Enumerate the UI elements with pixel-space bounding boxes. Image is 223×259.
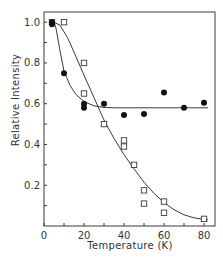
square-marker xyxy=(61,19,66,24)
square-marker xyxy=(161,210,166,215)
plot-border xyxy=(44,12,215,226)
circle-marker xyxy=(121,112,127,118)
circle-marker xyxy=(161,90,167,96)
fit-curves xyxy=(54,22,208,220)
square-marker xyxy=(131,162,136,167)
square-marker xyxy=(161,199,166,204)
y-tick-label: 0.8 xyxy=(24,57,40,68)
circle-marker xyxy=(181,105,187,111)
square-marker xyxy=(101,121,106,126)
circle-marker xyxy=(49,21,55,27)
square-marker xyxy=(81,91,86,96)
square-marker xyxy=(141,201,146,206)
y-tick-label: 0.4 xyxy=(24,139,40,150)
square-marker xyxy=(201,216,206,221)
axis-ticks xyxy=(44,22,204,226)
fit-curve xyxy=(54,22,208,108)
square-marker xyxy=(121,144,126,149)
y-tick-label: 0.2 xyxy=(24,180,40,191)
y-axis-label: Relative Intensity xyxy=(10,54,21,146)
square-marker xyxy=(141,188,146,193)
x-tick-label: 0 xyxy=(41,230,47,241)
square-marker xyxy=(81,60,86,65)
circle-marker xyxy=(61,70,67,76)
circle-marker xyxy=(201,100,207,106)
circle-marker xyxy=(81,105,87,111)
chart: 0204060800.20.40.60.81.0 Temperature (K)… xyxy=(0,0,223,259)
circle-marker xyxy=(141,111,147,117)
plot-frame xyxy=(44,12,215,226)
x-tick-label: 80 xyxy=(198,230,211,241)
fit-curve xyxy=(54,22,208,220)
x-axis-label: Temperature (K) xyxy=(86,240,172,251)
axis-tick-labels: 0204060800.20.40.60.81.0 xyxy=(24,17,210,241)
square-marker xyxy=(121,138,126,143)
y-tick-label: 1.0 xyxy=(24,17,40,28)
y-tick-label: 0.6 xyxy=(24,98,40,109)
circle-marker xyxy=(101,101,107,107)
